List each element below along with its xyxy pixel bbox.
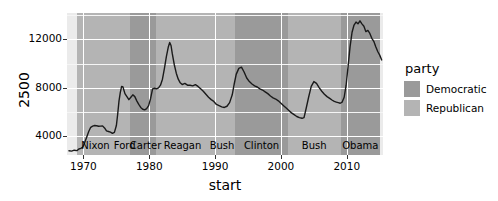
x-tick-mark-1 <box>149 155 150 159</box>
x-tick-label-0: 1970 <box>58 160 108 172</box>
legend-label-democratic: Democratic <box>426 83 487 95</box>
series-line-2500 <box>67 13 383 155</box>
band-label-nixon-0: Nixon <box>77 140 114 151</box>
legend-key-democratic-swatch <box>404 81 420 97</box>
band-label-bush-6: Bush <box>288 140 341 151</box>
legend: party DemocraticRepublican <box>404 62 496 118</box>
band-label-bush-4: Bush <box>209 140 235 151</box>
legend-title: party <box>405 62 496 76</box>
legend-item-democratic[interactable]: Democratic <box>404 80 496 98</box>
y-tick-label-1: 8000 <box>18 82 62 93</box>
band-label-carter-2: Carter <box>130 140 156 151</box>
y-tick-mark-1 <box>63 88 67 89</box>
plot-panel: NixonFordCarterReaganBushClintonBushObam… <box>67 13 383 155</box>
x-tick-mark-4 <box>347 155 348 159</box>
band-label-ford-1: Ford <box>114 140 130 151</box>
band-label-obama-7: Obama <box>341 140 381 151</box>
x-tick-label-2: 1990 <box>190 160 240 172</box>
y-axis-tick-labels: 4000800012000 <box>16 0 62 201</box>
y-tick-mark-0 <box>63 136 67 137</box>
legend-items: DemocraticRepublican <box>404 80 496 117</box>
y-tick-label-2: 12000 <box>18 33 62 44</box>
y-tick-label-0: 4000 <box>18 130 62 141</box>
x-tick-label-3: 2000 <box>256 160 306 172</box>
x-tick-mark-3 <box>281 155 282 159</box>
band-label-clinton-5: Clinton <box>235 140 288 151</box>
x-tick-label-1: 1980 <box>124 160 174 172</box>
legend-label-republican: Republican <box>426 102 484 114</box>
x-tick-mark-2 <box>215 155 216 159</box>
series-path <box>69 21 382 151</box>
band-label-reagan-3: Reagan <box>156 140 209 151</box>
legend-item-republican[interactable]: Republican <box>404 99 496 117</box>
y-tick-mark-2 <box>63 39 67 40</box>
x-axis-title: start <box>67 177 383 193</box>
x-tick-label-4: 2010 <box>322 160 372 172</box>
x-tick-mark-0 <box>83 155 84 159</box>
legend-key-republican-swatch <box>404 100 420 116</box>
chart-root: 2500 4000800012000 NixonFordCarterReagan… <box>0 0 498 201</box>
